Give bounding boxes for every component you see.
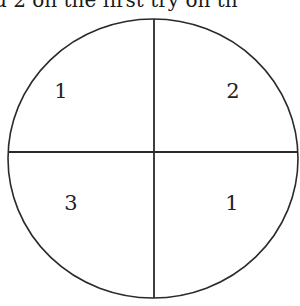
section-label-top-left: 1	[54, 79, 67, 103]
spinner-circle	[8, 19, 298, 298]
section-label-bottom-left: 3	[64, 191, 77, 215]
spinner-diagram: 1 2 3 1	[0, 0, 300, 306]
section-label-bottom-right: 1	[225, 191, 238, 215]
section-label-top-right: 2	[226, 79, 239, 103]
